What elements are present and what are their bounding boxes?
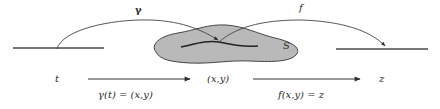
f-equation: f(x,y) = z: [278, 90, 324, 100]
codomain-variable-label: z: [379, 74, 384, 84]
gamma-arc-label: γ: [135, 5, 142, 15]
surface-label: S: [283, 41, 290, 51]
gamma-equation: γ(t) = (x,y): [98, 90, 153, 100]
point-label: (x,y): [207, 74, 229, 84]
f-arc-label: f: [299, 3, 303, 13]
composition-diagram: [0, 0, 440, 109]
domain-variable-label: t: [55, 74, 59, 84]
